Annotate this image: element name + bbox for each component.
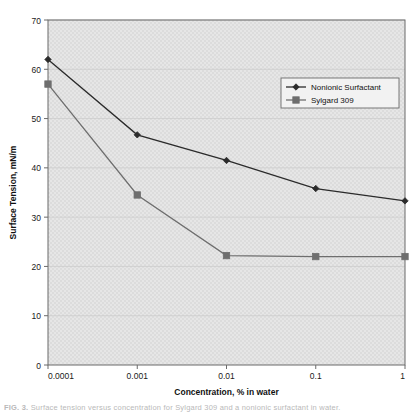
xtick-label: 1 [400, 371, 405, 381]
ytick-label: 70 [32, 16, 42, 26]
y-axis-title: Surface Tension, mN/m [8, 145, 18, 239]
data-point-marker [134, 192, 140, 198]
figure-container: 0102030405060700.00010.0010.010.11Concen… [0, 0, 416, 416]
legend-label: Nonionic Surfactant [311, 83, 382, 92]
figure-caption-text: Surface tension versus concentration for… [31, 403, 341, 412]
xtick-label: 0.01 [218, 371, 235, 381]
data-point-marker [223, 252, 229, 258]
plot-area [48, 20, 405, 365]
x-axis-title: Concentration, % in water [174, 387, 279, 397]
ytick-label: 0 [36, 361, 41, 371]
ytick-label: 50 [32, 114, 42, 124]
ytick-label: 30 [32, 213, 42, 223]
figure-caption-label: FIG. 3. [4, 403, 28, 412]
data-point-marker [45, 81, 51, 87]
ytick-label: 60 [32, 65, 42, 75]
data-point-marker [402, 253, 408, 259]
xtick-label: 0.1 [310, 371, 322, 381]
xtick-label: 0.001 [127, 371, 149, 381]
figure-caption: FIG. 3. Surface tension versus concentra… [4, 403, 412, 412]
legend-label: Sylgard 309 [311, 96, 354, 105]
ytick-label: 20 [32, 262, 42, 272]
xtick-label: 0.0001 [48, 371, 74, 381]
surface-tension-line-chart: 0102030405060700.00010.0010.010.11Concen… [0, 0, 416, 416]
ytick-label: 10 [32, 311, 42, 321]
data-point-marker [313, 253, 319, 259]
data-point-marker [293, 97, 299, 103]
ytick-label: 40 [32, 163, 42, 173]
